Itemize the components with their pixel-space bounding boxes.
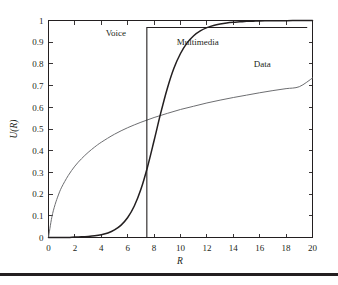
x-tick-label: 4 xyxy=(99,243,104,253)
multimedia-curve xyxy=(49,21,313,238)
annotation-voice: Voice xyxy=(106,28,126,38)
chart-figure: 02468101214161820 00.10.20.30.40.50.60.7… xyxy=(0,0,338,285)
footer-rule xyxy=(0,273,338,276)
y-axis-title: U(R) xyxy=(9,120,20,139)
x-tick-label: 8 xyxy=(152,243,157,253)
x-tick-label: 12 xyxy=(202,243,211,253)
x-tick-label: 14 xyxy=(229,243,239,253)
annotation-data: Data xyxy=(254,59,271,69)
x-tick-label: 20 xyxy=(308,243,318,253)
x-axis-ticks: 02468101214161820 xyxy=(46,21,317,253)
x-axis-title: R xyxy=(176,256,183,266)
y-tick-label: 1 xyxy=(39,16,44,26)
curve-annotations: VoiceMultimediaData xyxy=(106,28,271,69)
y-tick-label: 0.9 xyxy=(32,37,44,47)
x-tick-label: 10 xyxy=(176,243,186,253)
x-tick-label: 18 xyxy=(282,243,292,253)
y-tick-label: 0.8 xyxy=(32,59,44,69)
y-tick-label: 0.5 xyxy=(32,124,44,134)
x-tick-label: 2 xyxy=(73,243,78,253)
data-curve xyxy=(49,78,313,238)
x-tick-label: 6 xyxy=(125,243,130,253)
y-tick-label: 0.1 xyxy=(32,211,43,221)
y-tick-label: 0 xyxy=(39,233,44,243)
y-tick-label: 0.3 xyxy=(32,168,44,178)
y-tick-label: 0.7 xyxy=(32,81,44,91)
y-tick-label: 0.2 xyxy=(32,189,43,199)
utility-vs-rate-chart: 02468101214161820 00.10.20.30.40.50.60.7… xyxy=(0,0,338,285)
x-tick-label: 16 xyxy=(255,243,265,253)
annotation-multimedia: Multimedia xyxy=(177,37,219,47)
x-tick-label: 0 xyxy=(46,243,51,253)
y-tick-label: 0.6 xyxy=(32,103,44,113)
y-tick-label: 0.4 xyxy=(32,146,44,156)
y-axis-ticks: 00.10.20.30.40.50.60.70.80.91 xyxy=(32,16,312,243)
